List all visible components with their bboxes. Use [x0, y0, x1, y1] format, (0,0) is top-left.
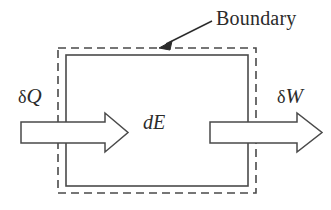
work-transfer-label: δW: [277, 86, 303, 107]
energy-symbol: E: [153, 111, 165, 133]
boundary-label-text: Boundary: [216, 7, 296, 29]
boundary-leader-arrowhead: [159, 41, 172, 50]
delta-symbol-work: δ: [277, 87, 286, 107]
heat-symbol: Q: [27, 84, 42, 108]
boundary-label: Boundary: [216, 8, 296, 28]
energy-change-label: dE: [143, 112, 165, 132]
differential-symbol: d: [143, 111, 153, 133]
work-symbol: W: [286, 84, 304, 108]
thermodynamics-figure: Boundary δQ δW dE: [0, 0, 331, 210]
delta-symbol-heat: δ: [18, 87, 27, 107]
boundary-leader-line: [166, 21, 212, 44]
work-output-arrow: [210, 113, 322, 152]
heat-transfer-label: δQ: [18, 86, 42, 107]
heat-input-arrow: [21, 113, 128, 152]
